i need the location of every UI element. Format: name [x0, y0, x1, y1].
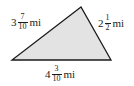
- left-side-fraction: 7 10: [18, 13, 28, 31]
- bottom-side-length-label: 4 3 10 mi: [45, 65, 75, 83]
- bottom-side-denominator: 10: [52, 75, 62, 83]
- left-side-numerator: 7: [20, 13, 26, 21]
- right-side-unit: mi: [113, 18, 125, 29]
- bottom-side-whole: 4: [45, 69, 51, 80]
- right-side-denominator: 2: [105, 24, 111, 32]
- left-side-unit: mi: [30, 17, 42, 28]
- bottom-side-numerator: 3: [54, 65, 60, 73]
- right-side-fraction: 1 2: [105, 14, 111, 32]
- bottom-side-unit: mi: [64, 69, 76, 80]
- right-side-length-label: 2 1 2 mi: [98, 14, 124, 32]
- left-side-denominator: 10: [18, 23, 28, 31]
- right-side-numerator: 1: [105, 14, 111, 22]
- left-side-whole: 3: [11, 17, 17, 28]
- left-side-length-label: 3 7 10 mi: [11, 13, 41, 31]
- right-side-whole: 2: [98, 18, 104, 29]
- bottom-side-fraction: 3 10: [52, 65, 62, 83]
